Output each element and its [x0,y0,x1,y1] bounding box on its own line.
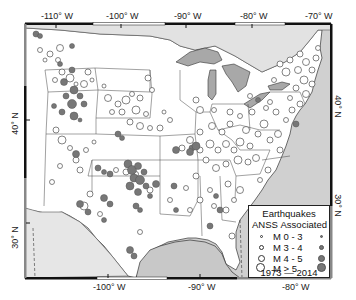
lon-label-bottom-80: -80° W [282,283,310,292]
legend-row-label: M 3 - 4 [273,242,303,253]
associated-symbol-small-icon [320,235,323,238]
legend-row-m0-3: M 0 - 3 [249,231,329,242]
legend-col-associated: Associated [281,219,327,230]
lon-label-top-100: -100° W [106,12,139,21]
lat-label-right-30: 30° N [333,194,342,217]
lon-label-top-110: -110° W [41,12,73,21]
lon-label-bottom-100: -100° W [93,283,126,292]
lat-label-left-30: 30° N [11,226,20,249]
legend-title: Earthquakes [249,208,329,219]
lat-label-left-40: 40° N [11,112,20,135]
lon-label-bottom-90: -90° W [188,283,216,292]
lon-label-top-90: -90° W [174,12,202,21]
anss-symbol-small-icon [260,235,263,238]
lon-label-top-80: -80° W [240,12,268,21]
anss-symbol-large-icon [258,255,265,262]
legend-years-line: 1973 — 2014 [248,267,330,278]
associated-symbol-medium-icon [319,245,324,250]
legend-header: ANSS Associated [252,219,327,230]
lon-label-top-70: -70° W [305,12,333,21]
legend-row-m3-4: M 3 - 4 [249,242,329,253]
legend-col-anss: ANSS [252,219,278,230]
anss-symbol-medium-icon [259,245,264,250]
lat-label-right-40: 40° N [333,95,342,118]
legend-row-label: M 0 - 3 [273,231,303,242]
lake-michigan [208,70,216,100]
associated-symbol-large-icon [318,255,325,262]
